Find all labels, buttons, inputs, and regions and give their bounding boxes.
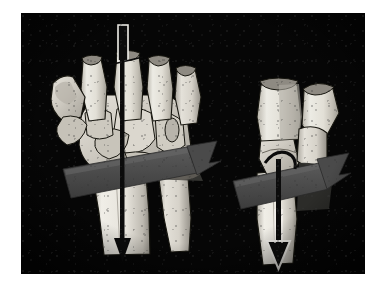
panel-vignette [21, 13, 365, 274]
figure-photo-panel [21, 13, 365, 274]
anatomical-illustration-svg [21, 13, 365, 274]
figure-page [0, 0, 374, 287]
